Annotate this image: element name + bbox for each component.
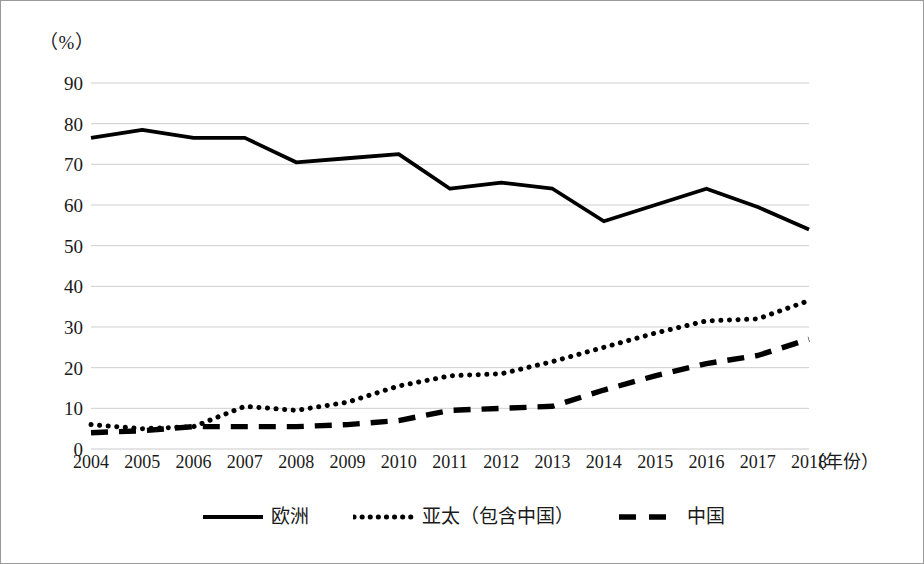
x-tick-label: 2010 [381,453,417,473]
chart-legend: 欧洲亚太（包含中国）中国 [1,507,924,526]
legend-swatch-solid-icon [202,510,264,524]
y-axis-tick-labels: 0102030405060708090 [31,83,83,449]
series-line-3 [91,339,809,433]
x-axis-title: （年份） [807,453,879,473]
legend-label: 欧洲 [271,507,309,526]
x-tick-label: 2016 [688,453,724,473]
x-tick-label: 2004 [73,453,109,473]
x-tick-label: 2013 [535,453,571,473]
y-tick-label: 80 [37,114,83,133]
y-tick-label: 60 [37,196,83,215]
y-tick-label: 10 [37,399,83,418]
y-tick-label: 40 [37,277,83,296]
x-tick-label: 2017 [740,453,776,473]
plot-svg [91,83,809,449]
series-line-1 [91,130,809,230]
legend-item-3[interactable]: 中国 [618,507,725,526]
legend-swatch-dotted-icon [353,510,415,524]
x-tick-label: 2011 [432,453,467,473]
y-tick-label: 20 [37,358,83,377]
legend-item-1[interactable]: 欧洲 [202,507,309,526]
x-tick-label: 2015 [637,453,673,473]
x-tick-label: 2009 [329,453,365,473]
legend-label: 中国 [687,507,725,526]
y-tick-label: 70 [37,155,83,174]
x-tick-label: 2012 [483,453,519,473]
y-tick-label: 50 [37,236,83,255]
legend-swatch-dashed-icon [618,510,680,524]
legend-label: 亚太（包含中国） [422,507,574,526]
y-tick-label: 30 [37,318,83,337]
y-axis-unit-label: （%） [39,27,94,54]
x-tick-label: 2008 [278,453,314,473]
x-tick-label: 2005 [124,453,160,473]
x-tick-label: 2006 [176,453,212,473]
y-tick-label: 90 [37,74,83,93]
chart-figure: （%） 0102030405060708090 2004200520062007… [0,0,924,564]
x-axis-tick-labels: 2004200520062007200820092010201120122013… [91,453,809,483]
legend-item-2[interactable]: 亚太（包含中国） [353,507,574,526]
plot-area [91,83,809,449]
x-tick-label: 2007 [227,453,263,473]
x-tick-label: 2014 [586,453,622,473]
